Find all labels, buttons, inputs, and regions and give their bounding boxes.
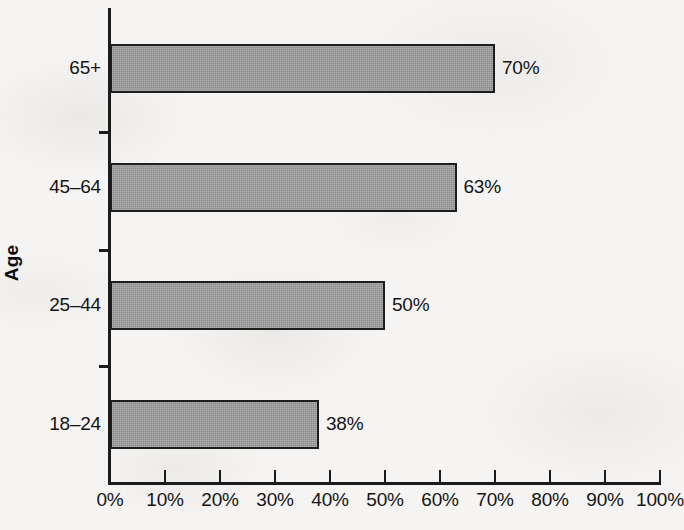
x-tick-100 [659,470,661,483]
x-tick-label: 100% [636,489,684,511]
bar-value-label: 50% [392,294,429,316]
category-label: 25–44 [49,294,101,316]
category-label: 65+ [69,57,101,79]
x-tick-label: 60% [421,489,458,511]
x-tick-50 [384,470,386,483]
bar-value-label: 63% [464,176,501,198]
x-tick-90 [604,470,606,483]
bar-chart: Age 0%10%20%30%40%50%60%70%80%90%100% 70… [0,0,684,530]
x-tick-30 [274,470,276,483]
x-tick-70 [494,470,496,483]
x-tick-label: 80% [531,489,568,511]
x-tick-label: 50% [366,489,403,511]
y-axis-title: Age [1,233,23,293]
x-tick-80 [549,470,551,483]
bar-value-label: 38% [326,413,363,435]
x-tick-label: 20% [201,489,238,511]
x-tick-10 [164,470,166,483]
bar [110,281,385,330]
category-label: 18–24 [49,413,101,435]
bar [110,44,495,93]
x-tick-0 [109,470,111,483]
x-tick-label: 10% [146,489,183,511]
bar [110,163,457,212]
x-tick-20 [219,470,221,483]
bar [110,400,319,449]
y-minor-tick-2 [99,365,109,368]
bar-value-label: 70% [502,57,539,79]
x-tick-label: 30% [256,489,293,511]
y-minor-tick-0 [99,131,109,134]
category-label: 45–64 [49,176,101,198]
x-tick-40 [329,470,331,483]
x-tick-label: 90% [586,489,623,511]
x-tick-60 [439,470,441,483]
y-minor-tick-1 [99,249,109,252]
x-tick-label: 70% [476,489,513,511]
x-tick-label: 0% [96,489,123,511]
x-tick-label: 40% [311,489,348,511]
